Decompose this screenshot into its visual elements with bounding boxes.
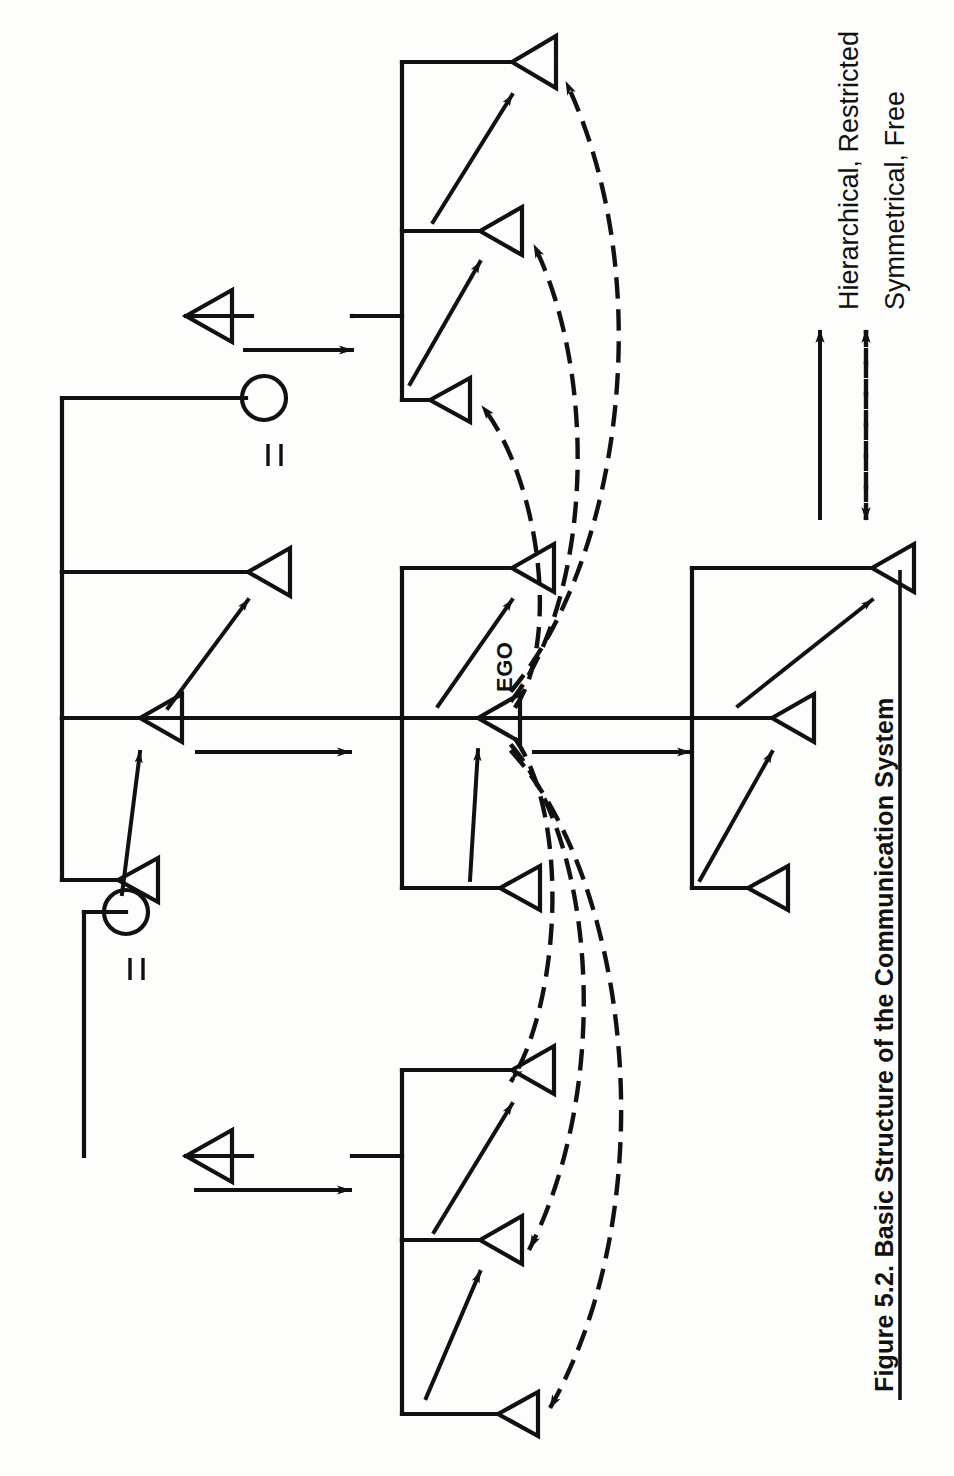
communication-structure-diagram: [0, 0, 954, 1476]
legend-label-symmetrical: Symmetrical, Free: [882, 91, 909, 310]
triangle-nodes: [118, 36, 914, 1436]
solid-horizontal-arrows: [196, 350, 690, 1190]
circle-nodes: [104, 376, 286, 934]
dashed-arrows: [482, 82, 621, 1408]
ego-label: EGO: [494, 642, 516, 692]
figure-page: Hierarchical, Restricted Symmetrical, Fr…: [0, 0, 954, 1476]
legend-graphic: [820, 330, 866, 520]
legend-label-hierarchical: Hierarchical, Restricted: [836, 31, 863, 310]
solid-arrows: [122, 95, 872, 1398]
figure-caption: Figure 5.2. Basic Structure of the Commu…: [872, 698, 897, 1392]
